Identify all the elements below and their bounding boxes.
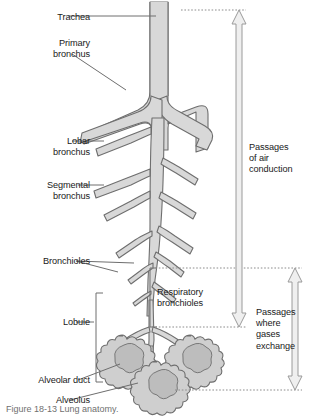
air-conduction-arrow xyxy=(232,10,246,327)
label-primary-bronchus: Primary bronchus xyxy=(18,38,90,60)
label-passages-where-gases-exchange: Passages where gases exchange xyxy=(256,307,318,352)
label-alveolar-duct: Alveolar duct xyxy=(2,375,90,386)
label-lobar-bronchus: Lobar bronchus xyxy=(18,136,90,158)
label-respiratory-bronchioles: Respiratory bronchioles xyxy=(157,287,231,309)
brackets xyxy=(96,268,157,382)
annotation-layer xyxy=(0,0,327,416)
label-passages-of-air-conduction: Passages of air conduction xyxy=(249,142,323,176)
label-lobule: Lobule xyxy=(22,317,90,328)
label-trachea: Trachea xyxy=(28,12,90,23)
figure-caption: Figure 18-13 Lung anatomy. xyxy=(6,404,118,414)
label-segmental-bronchus: Segmental bronchus xyxy=(8,180,90,202)
respiratory-bronchioles-bracket xyxy=(150,268,157,327)
leader-lines xyxy=(68,16,156,400)
label-bronchioles: Bronchioles xyxy=(8,256,90,267)
figure-canvas: Trachea Primary bronchus Lobar bronchus … xyxy=(0,0,327,416)
lobule-bracket xyxy=(96,293,103,382)
